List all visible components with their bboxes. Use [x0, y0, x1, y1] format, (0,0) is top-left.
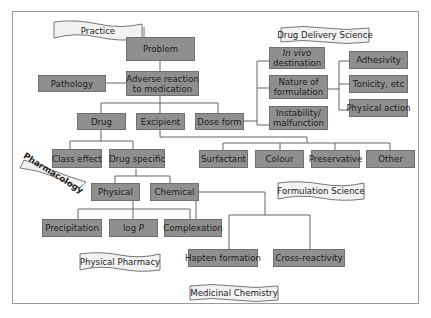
banner-formulation-science: Formulation Science	[276, 180, 366, 202]
node-in-vivo-destination: In vivo destination	[269, 47, 325, 69]
node-drug-specific: Drug specific	[109, 149, 165, 168]
node-adhesivity: Adhesivity	[349, 51, 408, 69]
node-precipitation: Precipitation	[42, 219, 102, 237]
node-class-effect: Class effect	[52, 149, 102, 168]
node-nature-of-formulation: Nature of formulation	[269, 75, 328, 99]
node-other: Other	[366, 150, 415, 168]
banner-practice-label: Practice	[81, 26, 115, 36]
node-colour: Colour	[255, 150, 304, 168]
banner-drug-delivery-science: Drug Delivery Science	[279, 25, 371, 45]
node-preservative: Preservative	[311, 150, 360, 168]
node-excipient: Excipient	[136, 113, 185, 130]
node-pathology: Pathology	[38, 75, 106, 92]
node-hapten-formation: Hapten formation	[188, 249, 258, 267]
banner-medicinal-chemistry-label: Medicinal Chemistry	[190, 288, 277, 298]
node-adverse-reaction: Adverse reaction to medication	[126, 71, 199, 96]
node-dose-form: Dose form	[195, 113, 244, 130]
node-tonicity: Tonicity, etc	[349, 75, 408, 93]
node-chemical: Chemical	[150, 183, 199, 201]
banner-formulation-label: Formulation Science	[277, 186, 364, 196]
banner-medicinal-chemistry: Medicinal Chemistry	[188, 283, 280, 303]
node-complexation: Complexation	[164, 219, 222, 237]
node-drug: Drug	[77, 113, 126, 130]
node-log-p: log P	[109, 219, 158, 237]
banner-physical-pharmacy-label: Physical Pharmacy	[80, 257, 160, 267]
node-physical-action: Physical action	[349, 99, 408, 117]
node-physical: Physical	[91, 183, 140, 201]
node-problem: Problem	[126, 37, 195, 61]
banner-physical-pharmacy: Physical Pharmacy	[78, 251, 162, 273]
node-instability-malfunction: Instability/ malfunction	[269, 106, 328, 130]
node-surfactant: Surfactant	[199, 150, 248, 168]
node-cross-reactivity: Cross-reactivity	[273, 249, 345, 267]
banner-drug-delivery-label: Drug Delivery Science	[277, 30, 373, 40]
